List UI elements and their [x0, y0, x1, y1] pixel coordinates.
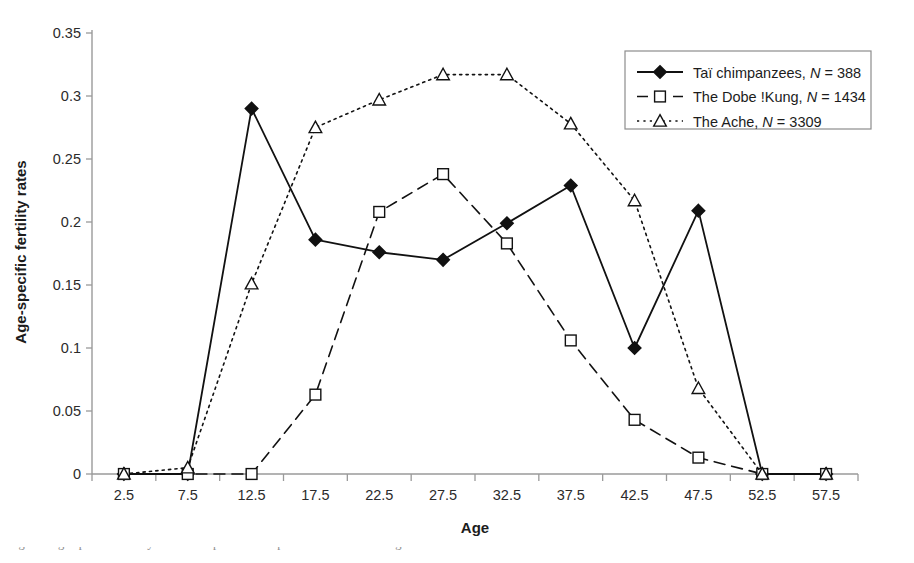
x-tick-label: 12.5 [237, 487, 265, 503]
data-point-diamond-marker [437, 254, 449, 266]
data-point-triangle-marker [501, 68, 514, 79]
data-point-triangle-marker [692, 382, 705, 393]
y-tick-label: 0.25 [53, 151, 81, 167]
data-point-square-marker [374, 207, 385, 218]
series-line [124, 75, 826, 474]
legend-n-symbol: N [807, 89, 818, 105]
x-tick-label: 52.5 [748, 487, 776, 503]
legend-n-value: = 3309 [773, 114, 822, 130]
x-tick-label: 27.5 [429, 487, 457, 503]
data-point-square-marker [310, 389, 321, 400]
x-tick-label: 22.5 [365, 487, 393, 503]
chart-series-layer [118, 68, 833, 480]
x-tick-label: 2.5 [114, 487, 134, 503]
legend-series-name: The Dobe !Kung, [693, 89, 807, 105]
data-point-triangle-marker [181, 461, 194, 472]
data-point-triangle-marker [309, 121, 322, 132]
legend-label: Taï chimpanzees, N = 388 [693, 65, 861, 81]
y-tick-label: 0 [73, 466, 81, 482]
data-point-diamond-marker [565, 179, 577, 191]
fertility-line-chart: 00.050.10.150.20.250.30.35 2.57.512.517.… [0, 0, 914, 540]
figure-caption: Fig. 3.2 Age-specific fertility in Taï c… [8, 547, 470, 551]
data-point-diamond-marker [628, 342, 640, 354]
chart-series [118, 68, 833, 479]
figure-container: 00.050.10.150.20.250.30.35 2.57.512.517.… [0, 0, 914, 563]
data-point-triangle-marker [564, 117, 577, 128]
chart-series [119, 169, 832, 480]
data-point-diamond-marker [245, 102, 257, 114]
data-point-square-marker [655, 91, 666, 102]
series-line [124, 174, 826, 474]
legend-n-symbol: N [810, 65, 821, 81]
y-axis-ticks: 00.050.10.150.20.250.30.35 [53, 25, 92, 482]
data-point-square-marker [246, 469, 257, 480]
legend-label: The Ache, N = 3309 [693, 114, 822, 130]
x-axis-title: Age [461, 519, 489, 536]
data-point-diamond-marker [309, 233, 321, 245]
x-tick-label: 47.5 [684, 487, 712, 503]
x-tick-label: 37.5 [557, 487, 585, 503]
data-point-square-marker [629, 414, 640, 425]
data-point-diamond-marker [373, 246, 385, 258]
data-point-triangle-marker [245, 277, 258, 288]
legend-series-name: Taï chimpanzees, [693, 65, 810, 81]
legend-n-symbol: N [762, 114, 773, 130]
x-tick-label: 42.5 [620, 487, 648, 503]
data-point-square-marker [565, 335, 576, 346]
series-line [124, 109, 826, 474]
legend-n-value: = 1434 [817, 89, 866, 105]
figure-caption-strip: Fig. 3.2 Age-specific fertility in Taï c… [0, 547, 914, 563]
y-tick-label: 0.35 [53, 25, 81, 41]
x-axis-ticks: 2.57.512.517.522.527.532.537.542.547.552… [92, 474, 858, 503]
y-tick-label: 0.05 [53, 403, 81, 419]
y-tick-label: 0.2 [61, 214, 81, 230]
data-point-square-marker [502, 238, 513, 249]
data-point-square-marker [693, 452, 704, 463]
legend-series-name: The Ache, [693, 114, 762, 130]
data-point-triangle-marker [373, 93, 386, 104]
chart-legend: Taï chimpanzees, N = 388The Dobe !Kung, … [625, 51, 871, 130]
legend-n-value: = 388 [820, 65, 861, 81]
x-tick-label: 57.5 [812, 487, 840, 503]
x-tick-label: 32.5 [493, 487, 521, 503]
data-point-diamond-marker [501, 217, 513, 229]
y-tick-label: 0.3 [61, 88, 81, 104]
x-tick-label: 17.5 [301, 487, 329, 503]
x-tick-label: 7.5 [178, 487, 198, 503]
legend-label: The Dobe !Kung, N = 1434 [693, 89, 866, 105]
chart-series [118, 102, 833, 480]
data-point-square-marker [438, 169, 449, 180]
data-point-triangle-marker [628, 194, 641, 205]
y-axis-title: Age-specific fertility rates [12, 160, 29, 343]
y-tick-label: 0.1 [61, 340, 81, 356]
data-point-diamond-marker [692, 204, 704, 216]
y-tick-label: 0.15 [53, 277, 81, 293]
